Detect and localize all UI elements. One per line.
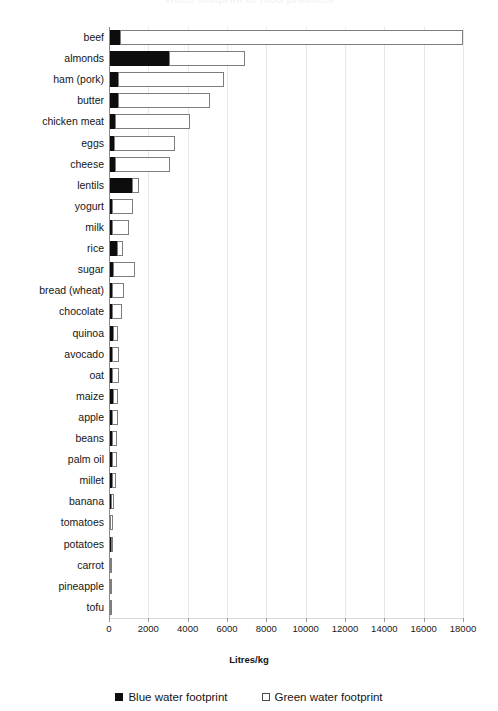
tick-label-4000: 4000 <box>177 623 198 634</box>
bar-segment-green-water <box>118 93 210 108</box>
category-axis-labels: beefalmondsham (pork)butterchicken meate… <box>0 27 104 618</box>
bar-segment-green-water <box>112 452 117 467</box>
tick-label-0: 0 <box>106 623 111 634</box>
bar-segment-green-water <box>169 51 245 66</box>
bar-row <box>109 69 463 90</box>
category-axis-line <box>109 27 110 618</box>
tick-mark <box>306 618 307 622</box>
bar-row <box>109 449 463 470</box>
open-square-icon <box>262 693 270 701</box>
tick-label-12000: 12000 <box>332 623 358 634</box>
category-label-avocado: avocado <box>4 344 104 365</box>
bar-row <box>109 90 463 111</box>
bar-segment-green-water <box>113 389 118 404</box>
tick-mark <box>148 618 149 622</box>
tick-mark <box>188 618 189 622</box>
tick-mark <box>109 618 110 622</box>
category-label-potatoes: potatoes <box>4 534 104 555</box>
bar-segment-green-water <box>117 241 123 256</box>
bar-segment-blue-water <box>109 51 169 66</box>
bar-row <box>109 428 463 449</box>
bar-segment-green-water <box>112 431 117 446</box>
bar-segment-blue-water <box>109 72 118 87</box>
bar-segment-green-water <box>115 157 170 172</box>
value-axis-ticks: 0200040006000800010000120001400016000180… <box>109 618 463 636</box>
bar-segment-green-water <box>110 558 112 573</box>
tick-mark <box>384 618 385 622</box>
bar-row <box>109 111 463 132</box>
category-label-almonds: almonds <box>4 48 104 69</box>
legend-item-blue-water[interactable]: Blue water footprint <box>115 691 227 703</box>
bar-segment-green-water <box>114 136 175 151</box>
tick-label-10000: 10000 <box>292 623 318 634</box>
tick-mark <box>463 618 464 622</box>
bar-segment-green-water <box>112 410 118 425</box>
tick-label-18000: 18000 <box>450 623 476 634</box>
bar-row <box>109 597 463 618</box>
bar-segment-green-water <box>115 114 190 129</box>
tick-label-2000: 2000 <box>138 623 159 634</box>
tick-mark <box>266 618 267 622</box>
category-label-lentils: lentils <box>4 175 104 196</box>
x-axis-title: Litres/kg <box>0 654 498 665</box>
bar-row <box>109 27 463 48</box>
bar-segment-green-water <box>110 579 112 594</box>
category-label-butter: butter <box>4 90 104 111</box>
bar-row <box>109 238 463 259</box>
bar-row <box>109 555 463 576</box>
category-label-yogurt: yogurt <box>4 196 104 217</box>
bar-segment-blue-water <box>109 93 118 108</box>
category-label-sugar: sugar <box>4 259 104 280</box>
gridline <box>463 27 464 618</box>
bar-row <box>109 175 463 196</box>
bar-row <box>109 48 463 69</box>
bar-segment-green-water <box>111 537 113 552</box>
bar-segment-green-water <box>112 220 130 235</box>
category-label-eggs: eggs <box>4 133 104 154</box>
tick-label-8000: 8000 <box>256 623 277 634</box>
category-label-chocolate: chocolate <box>4 301 104 322</box>
bar-segment-blue-water <box>109 30 120 45</box>
category-label-pineapple: pineapple <box>4 576 104 597</box>
bar-row <box>109 196 463 217</box>
category-label-apple: apple <box>4 407 104 428</box>
bar-segment-green-water <box>110 515 113 530</box>
tick-label-14000: 14000 <box>371 623 397 634</box>
category-label-beans: beans <box>4 428 104 449</box>
legend-label: Blue water footprint <box>128 691 227 703</box>
category-label-oat: oat <box>4 365 104 386</box>
category-label-millet: millet <box>4 470 104 491</box>
legend-item-green-water[interactable]: Green water footprint <box>262 691 383 703</box>
bar-segment-green-water <box>113 326 119 341</box>
bar-row <box>109 259 463 280</box>
bar-segment-green-water <box>120 30 463 45</box>
bar-row <box>109 407 463 428</box>
bar-segment-green-water <box>111 494 115 509</box>
legend-label: Green water footprint <box>275 691 383 703</box>
bar-row <box>109 512 463 533</box>
category-label-quinoa: quinoa <box>4 323 104 344</box>
category-label-palm-oil: palm oil <box>4 449 104 470</box>
bar-row <box>109 301 463 322</box>
category-label-ham-pork: ham (pork) <box>4 69 104 90</box>
tick-label-6000: 6000 <box>216 623 237 634</box>
chart-legend: Blue water footprintGreen water footprin… <box>0 691 498 703</box>
bar-row <box>109 576 463 597</box>
bar-segment-blue-water <box>109 178 132 193</box>
plot-area <box>109 27 463 618</box>
category-label-maize: maize <box>4 386 104 407</box>
bar-segment-green-water <box>112 199 132 214</box>
tick-mark <box>227 618 228 622</box>
category-label-tofu: tofu <box>4 597 104 618</box>
filled-square-icon <box>115 693 123 701</box>
category-label-bread-wheat: bread (wheat) <box>4 280 104 301</box>
category-label-banana: banana <box>4 491 104 512</box>
category-label-tomatoes: tomatoes <box>4 512 104 533</box>
bar-segment-green-water <box>112 368 120 383</box>
bar-row <box>109 280 463 301</box>
chart-title: Water footprint of food products <box>0 0 498 5</box>
bar-row <box>109 470 463 491</box>
category-label-carrot: carrot <box>4 555 104 576</box>
tick-mark <box>424 618 425 622</box>
bar-segment-green-water <box>118 72 224 87</box>
